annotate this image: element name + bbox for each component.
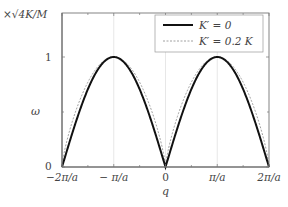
legend-entry-2: K′ = 0.2 K [198, 35, 254, 47]
y-unit-label: ×√4K/M [3, 8, 48, 20]
x-tick-neg-2pi: −2π/a [46, 171, 78, 183]
legend-entry-1: K′ = 0 [198, 19, 232, 31]
y-tick-1: 1 [45, 51, 52, 63]
x-axis-label: q [162, 185, 169, 198]
x-tick-neg-pi: − π/a [99, 171, 128, 183]
x-tick-2pi: 2π/a [256, 171, 280, 183]
chart-svg: K′ = 0 K′ = 0.2 K ×√4K/M ω q 1 0 −2π/a −… [0, 0, 288, 207]
x-tick-pi: π/a [208, 171, 226, 183]
legend: K′ = 0 K′ = 0.2 K [155, 15, 263, 52]
y-axis-label: ω [31, 105, 40, 118]
x-tick-zero: 0 [162, 171, 169, 183]
